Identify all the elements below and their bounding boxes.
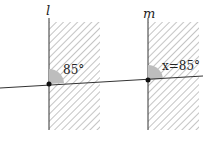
angle-label-m: x=85° — [162, 59, 200, 73]
diagram-canvas: l m 85° x=85° — [0, 0, 203, 143]
label-l: l — [46, 3, 50, 18]
parallel-lines-diagram: l m 85° x=85° — [0, 0, 203, 143]
label-m: m — [143, 6, 155, 21]
intersection-point-l — [47, 82, 52, 87]
angle-label-l: 85° — [63, 63, 84, 77]
intersection-point-m — [146, 78, 151, 83]
